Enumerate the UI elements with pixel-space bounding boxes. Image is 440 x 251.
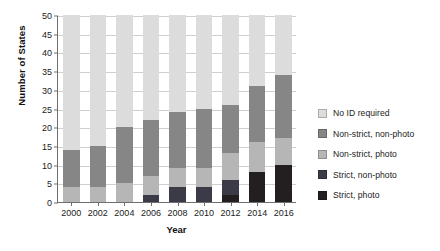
y-tick-label: 5 — [47, 179, 52, 189]
bar-segment[interactable] — [222, 105, 239, 154]
plot-area: 05101520253035404550 2000200220042006200… — [57, 16, 296, 203]
bar-segment[interactable] — [275, 75, 292, 139]
x-axis-title: Year — [57, 224, 296, 235]
x-tick-mark — [151, 202, 152, 206]
bar-segment[interactable] — [249, 172, 266, 202]
x-tick-label: 2008 — [167, 208, 187, 218]
bar-segment[interactable] — [249, 86, 266, 142]
x-tick-mark — [257, 202, 258, 206]
y-tick-label: 40 — [42, 48, 52, 58]
bar-segment[interactable] — [249, 15, 266, 86]
x-tick-label: 2016 — [274, 208, 294, 218]
x-tick-mark — [124, 202, 125, 206]
legend-swatch-icon — [318, 170, 327, 179]
bar-segment[interactable] — [116, 15, 133, 127]
x-tick-mark — [178, 202, 179, 206]
legend-label: Strict, non-photo — [333, 170, 397, 180]
bar-segment[interactable] — [196, 168, 213, 187]
x-tick-mark — [98, 202, 99, 206]
bar-segment[interactable] — [249, 142, 266, 172]
bar-column[interactable] — [116, 15, 133, 202]
bar-segment[interactable] — [196, 15, 213, 109]
bar-column[interactable] — [90, 15, 107, 202]
stacked-bar-chart: Number of States 05101520253035404550 20… — [0, 0, 440, 251]
legend-item[interactable]: Strict, photo — [318, 185, 414, 206]
bar-column[interactable] — [222, 15, 239, 202]
bar-segment[interactable] — [222, 15, 239, 105]
legend-swatch-icon — [318, 150, 327, 159]
x-tick-mark — [71, 202, 72, 206]
bar-segment[interactable] — [275, 138, 292, 164]
x-tick-label: 2006 — [141, 208, 161, 218]
y-tick-label: 0 — [47, 198, 52, 208]
bar-segment[interactable] — [169, 168, 186, 187]
legend-item[interactable]: Strict, non-photo — [318, 165, 414, 186]
chart-legend: No ID requiredNon-strict, non-photoNon-s… — [318, 103, 414, 206]
bar-segment[interactable] — [116, 183, 133, 202]
bar-segment[interactable] — [275, 15, 292, 75]
bar-segment[interactable] — [90, 187, 107, 202]
bar-column[interactable] — [143, 15, 160, 202]
bar-segment[interactable] — [169, 112, 186, 168]
bar-column[interactable] — [63, 15, 80, 202]
legend-item[interactable]: Non-strict, non-photo — [318, 124, 414, 145]
legend-label: Strict, photo — [333, 190, 380, 200]
x-tick-mark — [204, 202, 205, 206]
bar-segment[interactable] — [169, 15, 186, 112]
x-tick-label: 2012 — [221, 208, 241, 218]
bar-column[interactable] — [169, 15, 186, 202]
bar-segment[interactable] — [63, 187, 80, 202]
bar-segment[interactable] — [196, 187, 213, 202]
bar-segment[interactable] — [143, 176, 160, 195]
legend-swatch-icon — [318, 129, 327, 138]
bar-segment[interactable] — [143, 120, 160, 176]
y-tick-label: 45 — [42, 30, 52, 40]
bar-segment[interactable] — [63, 15, 80, 150]
bar-column[interactable] — [249, 15, 266, 202]
bar-segment[interactable] — [63, 150, 80, 187]
x-tick-label: 2010 — [194, 208, 214, 218]
x-tick-mark — [284, 202, 285, 206]
bar-column[interactable] — [196, 15, 213, 202]
bar-segment[interactable] — [90, 15, 107, 146]
y-tick-label: 30 — [42, 86, 52, 96]
y-tick-label: 15 — [42, 142, 52, 152]
bar-segment[interactable] — [90, 146, 107, 187]
legend-swatch-icon — [318, 191, 327, 200]
y-tick-label: 50 — [42, 11, 52, 21]
y-axis-title: Number of States — [16, 1, 27, 131]
y-tick-label: 35 — [42, 67, 52, 77]
y-tick-label: 25 — [42, 105, 52, 115]
x-tick-label: 2004 — [114, 208, 134, 218]
x-tick-mark — [231, 202, 232, 206]
bar-segment[interactable] — [275, 165, 292, 202]
y-tick-label: 10 — [42, 161, 52, 171]
bars-group — [58, 16, 296, 202]
bar-segment[interactable] — [169, 187, 186, 202]
y-tick-label: 20 — [42, 123, 52, 133]
bar-segment[interactable] — [222, 153, 239, 179]
bar-segment[interactable] — [143, 15, 160, 120]
y-tick-mark — [54, 203, 58, 204]
bar-segment[interactable] — [222, 195, 239, 202]
bar-segment[interactable] — [196, 109, 213, 169]
legend-item[interactable]: Non-strict, photo — [318, 144, 414, 165]
x-tick-label: 2000 — [61, 208, 81, 218]
legend-label: Non-strict, photo — [333, 149, 397, 159]
bar-segment[interactable] — [222, 180, 239, 195]
x-tick-label: 2014 — [247, 208, 267, 218]
bar-segment[interactable] — [143, 195, 160, 202]
legend-item[interactable]: No ID required — [318, 103, 414, 124]
bar-segment[interactable] — [116, 127, 133, 183]
legend-label: Non-strict, non-photo — [333, 129, 414, 139]
legend-label: No ID required — [333, 108, 390, 118]
legend-swatch-icon — [318, 109, 327, 118]
x-tick-label: 2002 — [88, 208, 108, 218]
bar-column[interactable] — [275, 15, 292, 202]
